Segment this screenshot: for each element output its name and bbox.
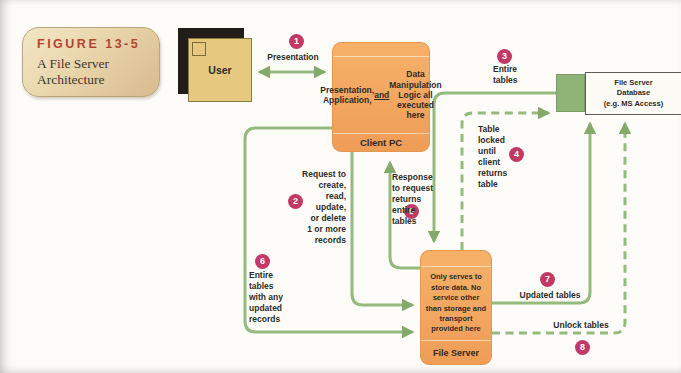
file-server-node: Only serves to store data. No service ot…: [420, 250, 492, 365]
file-server-title: File Server: [421, 340, 491, 364]
step-1-badge: 1: [289, 34, 304, 49]
step-3-label: Entire tables: [493, 64, 518, 86]
user-node: User: [178, 28, 254, 104]
step-7-label: Updated tables: [510, 290, 590, 301]
client-pc-text-post: Data Manipulation Logic all executed her…: [389, 69, 441, 120]
client-pc-text-pre: Presentation, Application,: [320, 85, 374, 106]
step-4-badge: 4: [509, 147, 524, 162]
client-pc-title: Client PC: [333, 133, 429, 151]
database-node: File Server Database (e.g. MS Access): [585, 72, 681, 115]
step-3-badge: 3: [497, 49, 512, 64]
figure-badge: FIGURE 13-5 A File Server Architecture: [22, 27, 160, 97]
step-2-label: Request to create, read, update, or dele…: [266, 169, 346, 246]
file-server-description: Only serves to store data. No service ot…: [421, 267, 491, 340]
client-pc-node: Presentation, Application, and Data Mani…: [332, 42, 430, 152]
step-7-badge: 7: [540, 272, 555, 287]
step-8-badge: 8: [575, 340, 590, 355]
step-4-label: Table locked until client returns table: [478, 124, 507, 190]
client-pc-header-band: [333, 43, 429, 57]
user-label: User: [188, 38, 252, 102]
database-3d-face: [556, 74, 585, 112]
figure-number: FIGURE 13-5: [37, 37, 159, 51]
client-pc-description: Presentation, Application, and Data Mani…: [333, 57, 429, 133]
step-1-label: Presentation: [256, 52, 330, 63]
step-6-badge: 6: [255, 254, 270, 269]
diagram-canvas: FIGURE 13-5 A File Server Architecture U…: [0, 0, 681, 373]
step-5-label: Response to request returns entire table…: [392, 172, 433, 227]
client-pc-text-and: and: [374, 90, 389, 100]
step-8-label: Unlock tables: [548, 320, 614, 331]
figure-title: A File Server Architecture: [37, 56, 159, 88]
file-server-header-band: [421, 251, 491, 267]
step-6-label: Entire tables with any updated records: [249, 270, 283, 325]
